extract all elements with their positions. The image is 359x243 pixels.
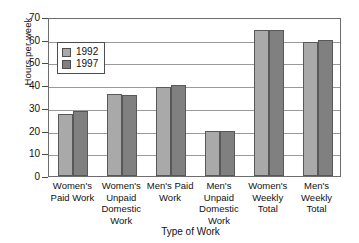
- legend-swatch-icon-1997: [62, 60, 71, 69]
- bar-1992-5: [303, 42, 318, 176]
- y-axis-tick-label: 40: [0, 81, 40, 91]
- x-axis-tick-labels: Women'sPaid WorkWomen'sUnpaidDomesticWor…: [48, 180, 341, 232]
- legend-swatch-icon-1992: [62, 48, 71, 57]
- bar-1992-0: [58, 114, 73, 176]
- y-axis-tick-label: 50: [0, 58, 40, 68]
- x-axis-title-text: Type of Work: [161, 226, 220, 237]
- legend-label-1992: 1992: [76, 47, 98, 57]
- bar-1997-4: [269, 30, 284, 177]
- bar-group: [107, 19, 137, 176]
- bar-1997-0: [73, 111, 88, 176]
- bar-1997-1: [122, 95, 137, 176]
- x-axis-tick-label: Men'sWeeklyTotal: [286, 180, 347, 215]
- bar-group: [156, 19, 186, 176]
- y-axis-tick: [42, 177, 48, 178]
- legend-item-1997: 1997: [62, 58, 98, 70]
- y-axis-tick-label: 10: [0, 149, 40, 159]
- bar-1992-1: [107, 94, 122, 176]
- bar-group: [303, 19, 333, 176]
- y-axis-tick-label: 60: [0, 36, 40, 46]
- bar-group: [254, 19, 284, 176]
- bar-1997-3: [220, 131, 235, 176]
- x-axis-title: Type of Work: [0, 226, 359, 237]
- bar-1992-2: [156, 87, 171, 176]
- y-axis-tick-label: 30: [0, 104, 40, 114]
- bar-1997-2: [171, 85, 186, 176]
- y-axis-tick-label: 20: [0, 127, 40, 137]
- y-axis-tick-label: 0: [0, 172, 40, 182]
- y-axis-tick-label: 70: [0, 13, 40, 23]
- bar-1992-3: [205, 131, 220, 176]
- bar-group: [205, 19, 235, 176]
- bar-1992-4: [254, 30, 269, 177]
- bar-1997-5: [318, 40, 333, 176]
- legend-label-1997: 1997: [76, 59, 98, 69]
- legend: 1992 1997: [57, 42, 105, 74]
- bar-chart: Hours per week 010203040506070 1992 1997…: [0, 0, 359, 243]
- legend-item-1992: 1992: [62, 46, 98, 58]
